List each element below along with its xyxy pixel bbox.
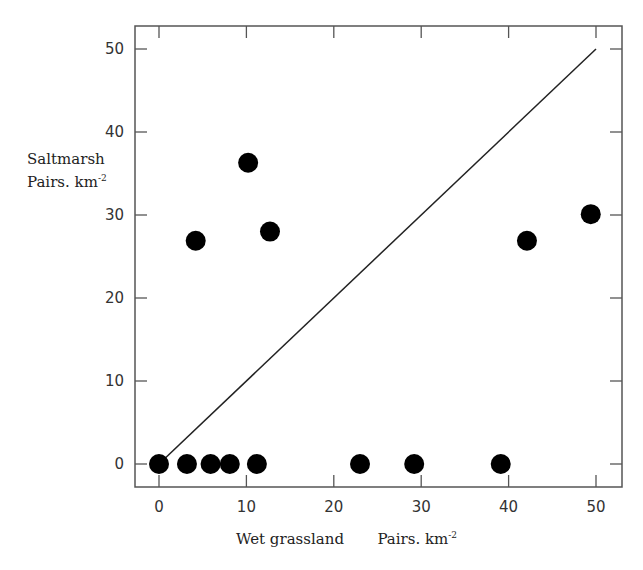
x-tick-label: 20 xyxy=(324,498,343,516)
data-point xyxy=(491,454,511,474)
data-point xyxy=(517,231,537,251)
x-units-text: Pairs. km xyxy=(377,530,448,548)
reference-line xyxy=(159,49,596,464)
y-tick-label: 30 xyxy=(105,206,124,224)
x-tick-label: 40 xyxy=(499,498,518,516)
data-point xyxy=(404,454,424,474)
x-tick-label: 0 xyxy=(154,498,164,516)
scatter-plot: 0102030405001020304050 xyxy=(0,0,643,570)
y-tick-label: 50 xyxy=(105,40,124,58)
y-tick-label: 10 xyxy=(105,372,124,390)
data-point xyxy=(186,231,206,251)
x-units-exponent: -2 xyxy=(448,530,457,540)
y-tick-label: 40 xyxy=(105,123,124,141)
data-points xyxy=(149,153,601,474)
y-axis-title-units: Pairs. km-2 xyxy=(27,169,107,192)
y-tick-label: 0 xyxy=(114,455,124,473)
x-tick-label: 30 xyxy=(412,498,431,516)
data-point xyxy=(260,222,280,242)
data-point xyxy=(201,454,221,474)
data-point xyxy=(149,454,169,474)
y-units-exponent: -2 xyxy=(98,173,107,183)
x-axis-title-name: Wet grassland xyxy=(236,530,344,548)
x-axis-title: Wet grassland Pairs. km-2 xyxy=(236,530,457,548)
y-axis-title: Saltmarsh Pairs. km-2 xyxy=(27,150,107,192)
x-tick-label: 10 xyxy=(237,498,256,516)
x-axis-gap xyxy=(344,530,377,548)
y-tick-label: 20 xyxy=(105,289,124,307)
y-units-text: Pairs. km xyxy=(27,173,98,191)
x-tick-label: 50 xyxy=(586,498,605,516)
data-point xyxy=(238,153,258,173)
data-point xyxy=(581,204,601,224)
data-point xyxy=(177,454,197,474)
data-point xyxy=(220,454,240,474)
data-point xyxy=(247,454,267,474)
y-axis-title-name: Saltmarsh xyxy=(27,150,107,169)
data-point xyxy=(350,454,370,474)
